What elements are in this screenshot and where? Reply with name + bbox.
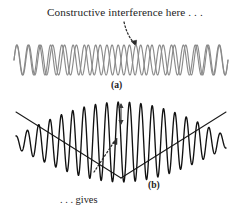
panel-a-label: (a) — [111, 80, 122, 90]
panel-a-wave-2 — [14, 45, 228, 75]
panel-a-pointer-arrow — [124, 22, 137, 46]
caption-line-1: . . . gives — [60, 194, 104, 205]
panel-a-waves — [14, 45, 228, 75]
figure-artwork — [0, 0, 239, 212]
panel-b-label: (b) — [148, 180, 160, 190]
large-amplitude-caption: . . . gives a large amplitude. — [60, 172, 104, 212]
beats-interference-figure: Constructive interference here . . . — [0, 0, 239, 212]
